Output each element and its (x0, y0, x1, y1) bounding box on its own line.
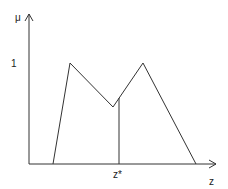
z-star-label: z* (113, 169, 122, 180)
membership-diagram: μ 1 z* z (0, 0, 228, 189)
y-tick-label: 1 (11, 58, 17, 69)
membership-curve (53, 63, 196, 164)
y-axis-label: μ (15, 12, 21, 23)
x-axis-label: z (209, 176, 214, 187)
